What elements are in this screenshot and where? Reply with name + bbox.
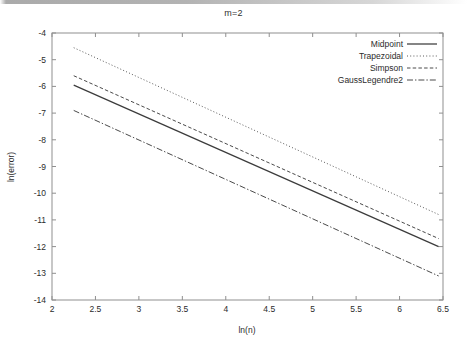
legend-label-midpoint: Midpoint	[371, 39, 404, 49]
legend-label-trapezoidal: Trapezoidal	[359, 51, 403, 61]
y-tick-label: -11	[34, 215, 46, 225]
plot-frame	[52, 33, 443, 300]
x-tick-label: 3	[137, 304, 142, 314]
legend-label-gausslegendre2: GaussLegendre2	[338, 75, 403, 85]
legend-label-simpson: Simpson	[370, 63, 403, 73]
x-tick-label: 3.5	[176, 304, 188, 314]
y-tick-label: -13	[34, 268, 47, 278]
x-tick-label: 2.5	[90, 304, 102, 314]
series-line-simpson	[74, 76, 439, 239]
y-tick-label: -6	[38, 81, 46, 91]
x-tick-label: 5	[310, 304, 315, 314]
x-tick-label: 6.5	[437, 304, 449, 314]
y-axis-label: ln(error)	[6, 152, 16, 182]
x-tick-label: 4.5	[263, 304, 275, 314]
chart-legend: MidpointTrapezoidalSimpsonGaussLegendre2	[338, 39, 437, 85]
x-tick-label: 5.5	[350, 304, 362, 314]
series-line-midpoint	[74, 85, 439, 247]
y-tick-label: -12	[34, 242, 47, 252]
y-tick-label: -5	[38, 55, 46, 65]
x-tick-label: 4	[223, 304, 228, 314]
plot-area: 22.533.544.555.566.5 -4-5-6-7-8-9-10-11-…	[0, 0, 467, 338]
x-tick-label: 2	[50, 304, 55, 314]
y-tick-label: -4	[38, 28, 46, 38]
y-tick-label: -10	[34, 188, 47, 198]
series-line-gausslegendre2	[74, 110, 439, 276]
x-axis-label: ln(n)	[238, 325, 255, 335]
y-tick-label: -9	[38, 162, 46, 172]
x-tick-label: 6	[397, 304, 402, 314]
y-tick-label: -14	[34, 295, 47, 305]
y-tick-label: -7	[38, 108, 46, 118]
chart-figure: m=2 22.533.544.555.566.5 -4-5-6-7-8-9-10…	[0, 0, 467, 338]
y-tick-label: -8	[38, 135, 46, 145]
